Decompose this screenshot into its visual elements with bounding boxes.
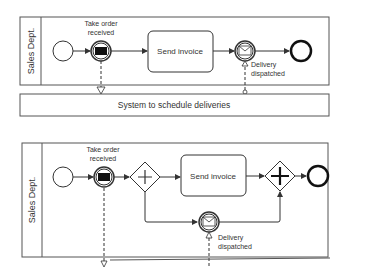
task-label: Send invoice [190, 172, 236, 181]
event-label: Take order [86, 146, 120, 153]
end-event[interactable] [308, 166, 328, 186]
message-flow-arrowhead [101, 261, 107, 267]
envelope-icon [203, 217, 215, 226]
message-catch-event[interactable] [94, 167, 114, 187]
message-throw-event[interactable] [199, 212, 219, 232]
event-label: Take order [84, 20, 118, 27]
bpmn-canvas: Sales Dept. Take order received Send inv… [0, 0, 366, 268]
pool-sales[interactable] [22, 143, 328, 257]
message-flow-source [243, 90, 247, 94]
message-throw-event[interactable] [235, 41, 255, 61]
event-label: received [88, 29, 115, 36]
lane-label: Sales Dept. [26, 28, 36, 75]
event-label: Delivery [251, 61, 277, 69]
event-label: dispatched [218, 243, 252, 251]
event-label: Delivery [218, 234, 244, 242]
task-label: Send invoice [157, 47, 203, 56]
pool-label: System to schedule deliveries [118, 100, 230, 110]
message-flow-arrowhead [97, 87, 105, 94]
message-filled-icon [95, 47, 107, 55]
event-label: dispatched [251, 70, 285, 78]
start-event[interactable] [53, 167, 73, 187]
envelope-icon [239, 46, 251, 55]
message-catch-event[interactable] [91, 41, 111, 61]
external-pool-edge [110, 258, 330, 260]
lane-label: Sales Dept. [27, 177, 37, 224]
diagram-1: Sales Dept. Take order received Send inv… [20, 17, 329, 116]
event-label: received [90, 155, 117, 162]
diagram-2: Sales Dept. Take order received Send inv… [22, 143, 330, 268]
message-filled-icon [98, 173, 110, 181]
end-event[interactable] [291, 41, 311, 61]
start-event[interactable] [53, 41, 73, 61]
